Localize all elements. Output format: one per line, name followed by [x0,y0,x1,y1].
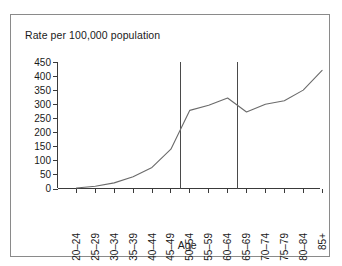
x-axis-tick-label: 35–39 [128,233,139,261]
reference-lines [181,62,238,189]
x-axis-tick-label: 30–34 [109,233,120,261]
x-axis-tick-label: 75–79 [279,233,290,261]
y-axis-tick-label: 300 [34,99,51,110]
chart-figure: Rate per 100,000 population 050100150200… [0,0,342,266]
x-axis-tick-label: 80–84 [298,233,309,261]
y-axis-tick-marks [53,63,58,190]
x-axis-tick-label: 55–59 [203,233,214,261]
x-axis-tick-label: 20–24 [71,233,82,261]
x-axis-tick-label: 60–64 [222,233,233,261]
x-axis-tick-label: 40–44 [147,233,158,261]
x-axis-tick-label: 65–69 [241,233,252,261]
x-axis-tick-labels: 20–2425–2930–3435–3940–4445–4950–5455–59… [71,233,328,261]
x-axis-tick-marks [76,189,322,194]
x-axis-tick-label: 45–49 [165,233,176,261]
y-axis-tick-label: 400 [34,71,51,82]
y-axis-tick-label: 450 [34,57,51,68]
x-axis-tick-label: 85+ [317,233,328,250]
y-axis-tick-label: 150 [34,141,51,152]
y-axis-tick-label: 50 [40,169,52,180]
y-axis-tick-label: 250 [34,113,51,124]
x-axis-tick-label: 25–29 [90,233,101,261]
y-axis-tick-labels: 050100150200250300350400450 [34,57,51,195]
line-chart-plot: 050100150200250300350400450 20–2425–2930… [0,0,342,266]
x-axis-title: Age [178,239,197,251]
x-axis-tick-label: 70–74 [260,233,271,261]
data-series-line [76,70,322,188]
y-axis-tick-label: 0 [45,183,51,194]
y-axis-tick-label: 350 [34,85,51,96]
y-axis-tick-label: 200 [34,127,51,138]
y-axis-tick-label: 100 [34,155,51,166]
